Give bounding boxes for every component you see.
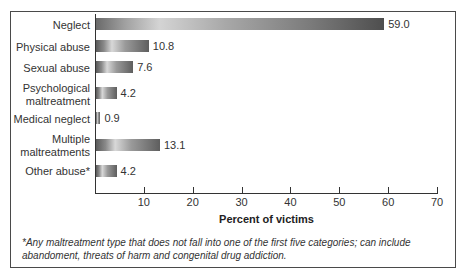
bar-psychological-maltreatment (96, 87, 117, 99)
x-axis-title: Percent of victims (95, 213, 438, 225)
value-label-medical-neglect: 0.9 (104, 112, 119, 124)
footnote: *Any maltreatment type that does not fal… (22, 236, 452, 262)
x-tick (290, 187, 291, 193)
category-label-physical-abuse: Physical abuse (16, 41, 90, 53)
bar-sexual-abuse (96, 61, 133, 73)
bar-other-abuse (96, 165, 117, 177)
x-tick (339, 187, 340, 193)
x-tick (144, 187, 145, 193)
x-axis (95, 193, 438, 194)
value-label-physical-abuse: 10.8 (153, 40, 174, 52)
value-label-other-abuse: 4.2 (121, 165, 136, 177)
footnote-line-2: abandoment, threats of harm and congenit… (22, 249, 452, 262)
bar-physical-abuse (96, 40, 149, 52)
x-tick-label: 30 (227, 196, 257, 208)
bar-neglect (96, 18, 384, 30)
x-tick-label: 70 (422, 196, 452, 208)
category-label-medical-neglect: Medical neglect (14, 113, 90, 125)
category-label-other-abuse: Other abuse* (25, 165, 90, 177)
category-label-sexual-abuse: Sexual abuse (23, 62, 90, 74)
x-tick-label: 40 (275, 196, 305, 208)
bar-medical-neglect (96, 112, 100, 124)
value-label-sexual-abuse: 7.6 (137, 61, 152, 73)
category-label-multiple-line1: Multiple (52, 133, 90, 145)
footnote-line-1: *Any maltreatment type that does not fal… (22, 236, 452, 249)
bar-chart: Neglect Physical abuse Sexual abuse Psyc… (0, 0, 468, 277)
x-tick-label: 20 (178, 196, 208, 208)
x-tick (388, 187, 389, 193)
x-tick (193, 187, 194, 193)
value-label-neglect: 59.0 (388, 18, 409, 30)
x-tick-label: 10 (129, 196, 159, 208)
category-label-neglect: Neglect (53, 19, 90, 31)
category-label-psychological-line1: Psychological (23, 82, 90, 94)
bar-multiple-maltreatments (96, 139, 160, 151)
x-tick-label: 50 (324, 196, 354, 208)
x-tick (437, 187, 438, 193)
value-label-multiple: 13.1 (164, 139, 185, 151)
category-label-multiple-line2: maltreatments (20, 146, 90, 158)
value-label-psychological: 4.2 (121, 87, 136, 99)
x-tick (242, 187, 243, 193)
x-tick-label: 60 (373, 196, 403, 208)
category-label-psychological-line2: maltreatment (26, 95, 90, 107)
